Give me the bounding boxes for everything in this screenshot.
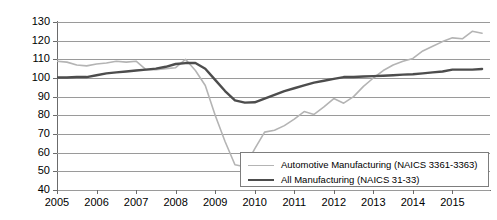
chart-legend: Automotive Manufacturing (NAICS 3361-336… xyxy=(240,152,489,187)
x-tick-label-2009: 2009 xyxy=(193,196,237,208)
y-tick-130: 130 xyxy=(18,16,50,27)
series-line-automotive xyxy=(57,31,482,166)
y-tick-label-100: 100 xyxy=(20,72,50,83)
x-tick-mark-2011 xyxy=(294,190,295,194)
y-tick-110: 110 xyxy=(18,53,50,64)
x-tick-label-2012: 2012 xyxy=(312,196,356,208)
x-tick-label-2010: 2010 xyxy=(233,196,277,208)
y-tick-label-60: 60 xyxy=(20,147,50,158)
x-tick-mark-2008 xyxy=(176,190,177,194)
y-tick-label-80: 80 xyxy=(20,109,50,120)
y-tick-70: 70 xyxy=(18,128,50,139)
x-tick-mark-2013 xyxy=(373,190,374,194)
legend-label-all-manufacturing: All Manufacturing (NAICS 31-33) xyxy=(281,175,419,185)
y-tick-label-50: 50 xyxy=(20,165,50,176)
x-tick-mark-2006 xyxy=(97,190,98,194)
x-tick-label-2014: 2014 xyxy=(391,196,435,208)
x-tick-label-2011: 2011 xyxy=(272,196,316,208)
production-index-line-chart: Production Index (base year 2007) 405060… xyxy=(0,0,497,220)
y-tick-90: 90 xyxy=(18,91,50,102)
y-tick-50: 50 xyxy=(18,165,50,176)
x-tick-label-2006: 2006 xyxy=(75,196,119,208)
gridline-y-40 xyxy=(57,190,490,191)
y-tick-label-70: 70 xyxy=(20,128,50,139)
legend-item-all-manufacturing: All Manufacturing (NAICS 31-33) xyxy=(248,173,419,187)
legend-label-automotive: Automotive Manufacturing (NAICS 3361-336… xyxy=(281,160,477,170)
x-tick-label-2013: 2013 xyxy=(351,196,395,208)
y-tick-60: 60 xyxy=(18,147,50,158)
y-tick-label-110: 110 xyxy=(20,53,50,64)
x-tick-mark-2014 xyxy=(413,190,414,194)
y-tick-label-130: 130 xyxy=(20,16,50,27)
x-tick-mark-2009 xyxy=(215,190,216,194)
x-tick-label-2005: 2005 xyxy=(35,196,79,208)
x-tick-label-2007: 2007 xyxy=(114,196,158,208)
y-tick-80: 80 xyxy=(18,109,50,120)
legend-swatch-automotive xyxy=(248,165,274,166)
x-tick-mark-2012 xyxy=(334,190,335,194)
x-tick-mark-2005 xyxy=(57,190,58,194)
y-tick-100: 100 xyxy=(18,72,50,83)
legend-swatch-all-manufacturing xyxy=(248,179,274,181)
series-line-all-manufacturing xyxy=(57,63,482,103)
y-tick-40: 40 xyxy=(18,184,50,195)
x-tick-label-2008: 2008 xyxy=(154,196,198,208)
x-tick-mark-2010 xyxy=(255,190,256,194)
x-tick-mark-2015 xyxy=(452,190,453,194)
x-tick-label-2015: 2015 xyxy=(430,196,474,208)
y-tick-label-90: 90 xyxy=(20,91,50,102)
legend-item-automotive: Automotive Manufacturing (NAICS 3361-336… xyxy=(248,158,477,172)
y-tick-120: 120 xyxy=(18,35,50,46)
x-tick-mark-2007 xyxy=(136,190,137,194)
y-tick-label-40: 40 xyxy=(20,184,50,195)
y-tick-label-120: 120 xyxy=(20,35,50,46)
